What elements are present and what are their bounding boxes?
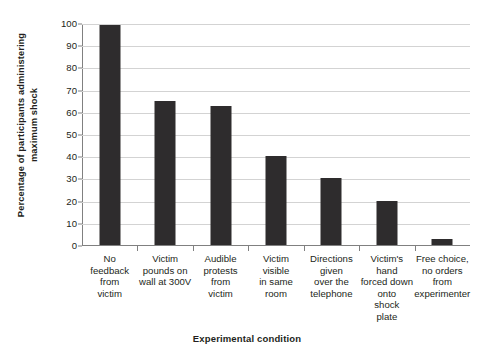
y-tick-mark: [78, 135, 82, 136]
plot-area: 0102030405060708090100: [82, 24, 470, 246]
x-tick-mark: [304, 246, 305, 251]
x-category-label-line: from: [402, 276, 482, 288]
y-tick-label: 20: [66, 197, 77, 207]
x-axis-line: [82, 245, 470, 246]
x-category-label-line: no orders: [402, 265, 482, 277]
gridline: [82, 24, 470, 25]
x-category-label-line: shock: [347, 299, 427, 311]
bar: [210, 106, 231, 245]
y-tick-label: 70: [66, 86, 77, 96]
y-tick-mark: [78, 179, 82, 180]
y-tick-label: 40: [66, 152, 77, 162]
x-tick-mark: [359, 246, 360, 251]
x-category-label: Free choice,no ordersfromexperimenter: [402, 253, 482, 299]
y-tick-label: 90: [66, 41, 77, 51]
bar-chart-figure: Percentage of participants administering…: [0, 0, 494, 356]
y-tick-label: 100: [61, 19, 77, 29]
bar: [376, 201, 397, 245]
gridline: [82, 91, 470, 92]
x-tick-mark: [248, 246, 249, 251]
y-axis-title-line-1: Percentage of participants administering: [15, 33, 28, 217]
y-tick-mark: [78, 201, 82, 202]
y-tick-mark: [78, 46, 82, 47]
y-tick-mark: [78, 223, 82, 224]
y-tick-mark: [78, 24, 82, 25]
y-tick-mark: [78, 68, 82, 69]
x-category-label-line: Free choice,: [402, 253, 482, 265]
x-tick-mark: [137, 246, 138, 251]
x-axis-category-labels: NofeedbackfromvictimVictimpounds onwall …: [82, 253, 470, 323]
y-axis-title-line-2: maximum shock: [28, 88, 41, 162]
y-tick-label: 80: [66, 64, 77, 74]
y-tick-mark: [78, 246, 82, 247]
gridline: [82, 113, 470, 114]
bar: [266, 156, 287, 245]
y-tick-label: 10: [66, 219, 77, 229]
y-tick-mark: [78, 112, 82, 113]
bar: [321, 178, 342, 245]
y-tick-label: 0: [72, 241, 77, 251]
gridline: [82, 68, 470, 69]
x-category-label-line: victim: [70, 288, 150, 300]
y-axis-title: Percentage of participants administering…: [6, 0, 50, 250]
y-tick-label: 50: [66, 130, 77, 140]
bar: [99, 25, 120, 245]
x-axis-title: Experimental condition: [0, 333, 494, 344]
x-tick-mark: [193, 246, 194, 251]
bar: [432, 239, 453, 245]
gridline: [82, 46, 470, 47]
y-tick-label: 60: [66, 108, 77, 118]
y-tick-label: 30: [66, 175, 77, 185]
x-category-label-line: experimenter: [402, 288, 482, 300]
bar: [155, 101, 176, 245]
y-tick-mark: [78, 90, 82, 91]
y-tick-mark: [78, 157, 82, 158]
gridline: [82, 135, 470, 136]
x-tick-mark: [415, 246, 416, 251]
x-category-label-line: plate: [347, 311, 427, 323]
